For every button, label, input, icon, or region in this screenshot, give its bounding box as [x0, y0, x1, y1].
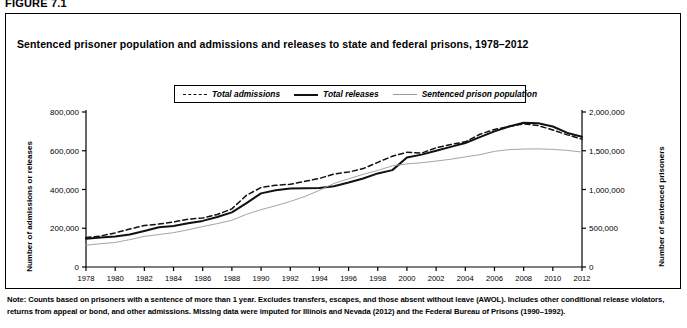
series-line-total-admissions	[86, 124, 582, 238]
figure-label: FIGURE 7.1	[5, 0, 67, 9]
x-axis-tick-label: 1982	[136, 274, 153, 283]
x-axis-tick-label: 1978	[78, 274, 95, 283]
x-axis-tick-label: 1980	[107, 274, 124, 283]
figure-note: Note: Counts based on prisoners with a s…	[7, 294, 679, 318]
x-axis-tick-label: 1996	[340, 274, 357, 283]
x-axis-tick-label: 2012	[574, 274, 591, 283]
y-axis-left-tick-label: 200,000	[50, 224, 79, 233]
x-axis-tick-label: 1984	[165, 274, 182, 283]
y-axis-right-tick-label: 0	[589, 263, 594, 272]
plot-area: 0200,000400,000600,000800,0000500,0001,0…	[6, 14, 682, 290]
series-line-sentenced-prison-population	[86, 149, 582, 245]
x-axis-tick-label: 2008	[515, 274, 532, 283]
y-axis-left-tick-label: 800,000	[50, 108, 79, 117]
y-axis-right-tick-label: 500,000	[589, 224, 618, 233]
line-chart-svg: 0200,000400,000600,000800,0000500,0001,0…	[6, 14, 682, 290]
x-axis-tick-label: 2004	[457, 274, 474, 283]
y-axis-left-tick-label: 400,000	[50, 186, 79, 195]
figure-container: FIGURE 7.1 Sentenced prisoner population…	[0, 0, 687, 328]
x-axis-tick-label: 2002	[428, 274, 445, 283]
y-axis-right-tick-label: 2,000,000	[589, 108, 625, 117]
x-axis-tick-label: 1994	[311, 274, 328, 283]
x-axis-tick-label: 1998	[369, 274, 386, 283]
x-axis-tick-label: 1992	[282, 274, 299, 283]
x-axis-tick-label: 1988	[223, 274, 240, 283]
y-axis-right-tick-label: 1,500,000	[589, 147, 625, 156]
y-axis-left-tick-label: 600,000	[50, 147, 79, 156]
series-line-total-releases	[86, 123, 582, 239]
x-axis-tick-label: 1990	[253, 274, 270, 283]
y-axis-left-tick-label: 0	[75, 263, 80, 272]
x-axis-tick-label: 2010	[544, 274, 561, 283]
figure-panel: Sentenced prisoner population and admiss…	[5, 13, 681, 289]
x-axis-tick-label: 1986	[194, 274, 211, 283]
x-axis-tick-label: 2000	[398, 274, 415, 283]
x-axis-tick-label: 2006	[486, 274, 503, 283]
y-axis-right-tick-label: 1,000,000	[589, 186, 625, 195]
